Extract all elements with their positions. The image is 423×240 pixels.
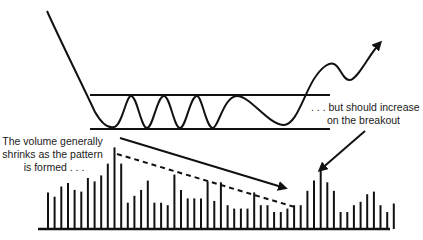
annotation-line: shrinks as the pattern (2, 148, 103, 160)
annotation-line: on the breakout (327, 114, 400, 126)
volume-shrinks-annotation: The volume generally shrinks as the patt… (2, 135, 105, 173)
breakout-volume-arrow (320, 131, 365, 170)
annotation-line: . . . but should increase (311, 101, 420, 113)
annotation-line: The volume generally (2, 135, 103, 147)
rectangle-volume-diagram: The volume generally shrinks as the patt… (0, 0, 423, 240)
volume-increase-annotation: . . . but should increase on the breakou… (311, 101, 423, 126)
annotation-line: is formed . . . (24, 161, 85, 173)
